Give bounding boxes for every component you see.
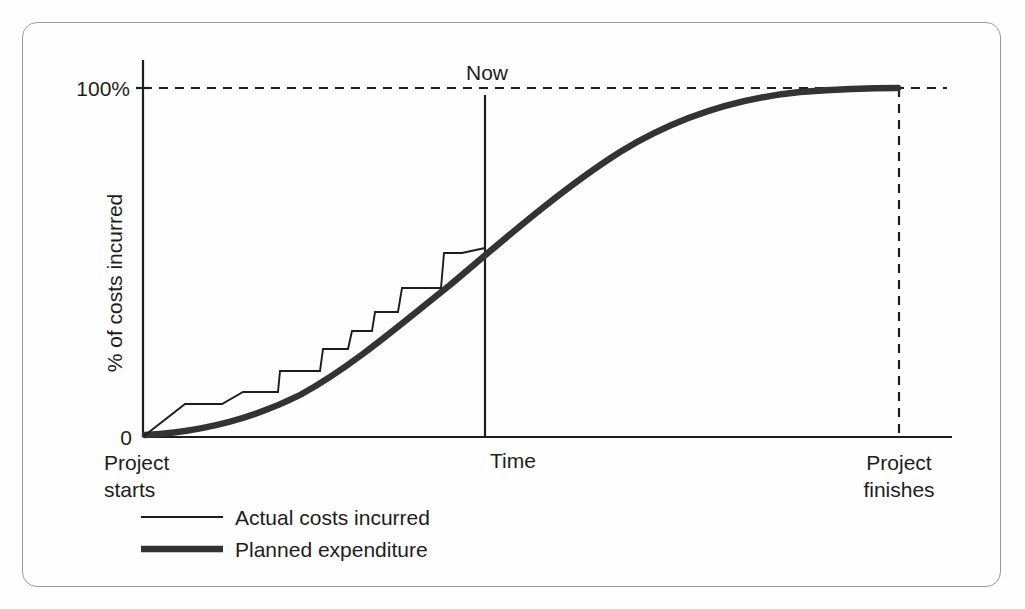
y-tick-label-100: 100% [76,77,130,100]
now-label: Now [466,61,509,84]
y-tick-label-zero: 0 [120,426,132,449]
series-planned-expenditure [145,88,898,435]
figure-container: % of costs incurred 100% 0 Now Time Proj… [0,0,1025,609]
legend: Actual costs incurred Planned expenditur… [141,506,430,561]
project-starts-label-line1: Project [104,451,170,474]
s-curve-chart: % of costs incurred 100% 0 Now Time Proj… [0,0,1025,609]
y-axis-title: % of costs incurred [103,194,126,373]
legend-item-actual: Actual costs incurred [141,506,430,529]
x-axis-title: Time [490,449,536,472]
legend-item-planned: Planned expenditure [141,538,428,561]
legend-label-actual: Actual costs incurred [235,506,430,529]
project-starts-label-line2: starts [104,478,155,501]
project-finishes-label-line2: finishes [863,478,934,501]
project-finishes-label-line1: Project [866,451,932,474]
series-actual-costs [144,248,485,436]
legend-label-planned: Planned expenditure [235,538,428,561]
